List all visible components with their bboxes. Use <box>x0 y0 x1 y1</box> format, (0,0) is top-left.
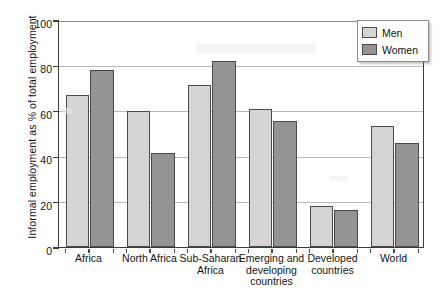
x-axis-label-developed-countries: Developedcountries <box>298 253 367 276</box>
y-tick-label-60: 60 <box>0 105 58 123</box>
bar-women-sub-saharan-africa <box>212 61 236 247</box>
x-axis-label-world: World <box>359 253 428 265</box>
x-axis-label-line: countries <box>298 265 367 277</box>
legend-swatch-men <box>362 27 377 38</box>
bar-chart: Informal employment as % of total employ… <box>0 0 440 295</box>
bar-men-sub-saharan-africa <box>188 85 212 247</box>
legend: Men Women <box>357 20 429 62</box>
bar-men-developed-countries <box>310 206 334 247</box>
bar-women-world <box>395 143 419 247</box>
bar-women-emerging-and-developing-countries <box>273 121 297 247</box>
bar-men-north-africa <box>127 111 151 247</box>
x-axis-label-line: countries <box>237 276 306 288</box>
x-axis-label-africa: Africa <box>54 253 123 265</box>
bar-women-developed-countries <box>334 210 358 247</box>
legend-label-men: Men <box>382 27 402 39</box>
x-axis-label-emerging-and-developing-countries: Emerging anddevelopingcountries <box>237 253 306 288</box>
bar-men-africa <box>66 95 90 247</box>
y-tick-label-20: 20 <box>0 196 58 214</box>
y-tick-label-40: 40 <box>0 150 58 168</box>
x-axis-label-sub-saharan-africa: Sub-SaharanAfrica <box>176 253 245 276</box>
x-axis-label-line: Developed <box>298 253 367 265</box>
y-tick-label-80: 80 <box>0 59 58 77</box>
y-tick-label-0: 0 <box>0 241 58 259</box>
x-axis-label-line: Sub-Saharan <box>176 253 245 265</box>
x-axis-label-line: Emerging and <box>237 253 306 265</box>
scan-artifact <box>330 176 348 181</box>
bar-men-world <box>371 126 395 247</box>
x-axis-label-line: Africa <box>54 253 123 265</box>
bar-women-north-africa <box>151 153 175 247</box>
legend-label-women: Women <box>382 44 418 56</box>
bar-women-africa <box>90 70 114 247</box>
y-tick-label-100: 100 <box>0 14 58 32</box>
legend-item-men: Men <box>362 25 424 40</box>
bar-men-emerging-and-developing-countries <box>249 109 273 247</box>
x-axis-label-line: North Africa <box>115 253 184 265</box>
scan-artifact <box>62 108 72 114</box>
scan-artifact <box>196 44 316 53</box>
x-axis-label-north-africa: North Africa <box>115 253 184 265</box>
x-axis-label-line: Africa <box>176 265 245 277</box>
y-axis-title: Informal employment as % of total employ… <box>26 2 38 252</box>
x-axis-label-line: World <box>359 253 428 265</box>
legend-swatch-women <box>362 44 377 55</box>
legend-item-women: Women <box>362 42 424 57</box>
